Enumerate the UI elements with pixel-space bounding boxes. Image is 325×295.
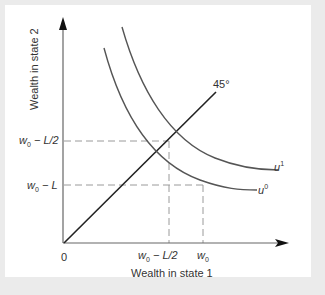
curve-label-u1: u1 <box>274 160 284 173</box>
x-tick-w0: w0 <box>197 250 209 263</box>
curve-label-u0: u0 <box>258 183 268 196</box>
y-tick-w0-minus-L: w0 − L <box>27 180 58 193</box>
x-tick-w0-minus-half-L: w0 − L/2 <box>138 250 178 263</box>
angle-label: 45° <box>213 79 230 90</box>
x-axis-label: Wealth in state 1 <box>131 268 213 279</box>
origin-label: 0 <box>61 252 67 263</box>
line-45-degree <box>64 92 216 243</box>
y-axis-label: Wealth in state 2 <box>28 28 40 110</box>
y-axis-arrow-icon <box>59 17 67 30</box>
indifference-curve-u0 <box>104 48 257 190</box>
y-tick-w0-minus-half-L: w0 − L/2 <box>19 135 59 148</box>
indifference-curve-u1 <box>122 27 278 170</box>
